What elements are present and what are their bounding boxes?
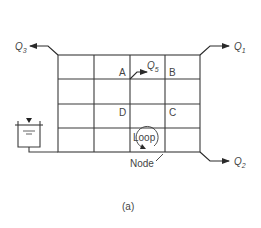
pipe-network-diagram: Q3 Q1 Q2 Q5 A B C D Loop Node (a) (0, 0, 261, 228)
node-label-c: C (169, 107, 176, 118)
node-annotation-label: Node (130, 158, 154, 169)
outflow-q1-label: Q1 (234, 41, 246, 54)
reservoir-tank (15, 121, 58, 152)
outflow-q3-label: Q3 (15, 41, 27, 54)
outflow-q3-pipe (30, 46, 58, 55)
node-label-b: B (169, 67, 176, 78)
node-pointer-line (156, 154, 163, 161)
figure-caption: (a) (122, 201, 134, 212)
outflow-q5-label: Q5 (147, 60, 159, 73)
pipe-grid (58, 55, 200, 152)
water-level-icon (26, 118, 32, 123)
node-label-a: A (119, 67, 126, 78)
node-label-d: D (119, 107, 126, 118)
outflow-q1-pipe (200, 46, 229, 55)
outflow-q2-label: Q2 (234, 156, 246, 169)
loop-label: Loop (133, 132, 156, 143)
outflow-q5-pipe (130, 72, 147, 79)
outflow-q2-pipe (200, 152, 229, 161)
